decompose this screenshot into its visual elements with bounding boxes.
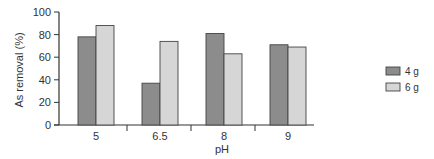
chart-canvas: 02040608010056.589 As removal (%) pH 4 g… <box>0 0 434 159</box>
bars <box>78 26 306 125</box>
y-axis-label: As removal (%) <box>13 32 25 107</box>
bar-4g-ph9 <box>270 45 288 125</box>
bar-4g-ph6.5 <box>142 83 160 125</box>
legend-swatch <box>386 67 400 75</box>
y-tick-label: 80 <box>39 29 51 41</box>
y-tick-label: 0 <box>45 119 51 131</box>
x-tick-label: 6.5 <box>152 130 167 142</box>
y-tick-label: 60 <box>39 51 51 63</box>
bar-6g-ph8 <box>224 54 242 125</box>
bar-4g-ph5 <box>78 37 96 125</box>
bar-6g-ph5 <box>96 26 114 125</box>
x-tick-label: 8 <box>221 130 227 142</box>
x-tick-label: 9 <box>285 130 291 142</box>
y-tick-label: 20 <box>39 96 51 108</box>
bar-6g-ph6.5 <box>160 41 178 125</box>
x-tick-label: 5 <box>93 130 99 142</box>
legend-label: 6 g <box>405 82 419 93</box>
bar-chart: 02040608010056.589 As removal (%) pH 4 g… <box>0 0 434 159</box>
legend-label: 4 g <box>405 66 419 77</box>
bar-6g-ph9 <box>288 47 306 125</box>
legend-swatch <box>386 83 400 91</box>
x-axis-label: pH <box>215 143 229 155</box>
y-tick-label: 40 <box>39 74 51 86</box>
bar-4g-ph8 <box>206 33 224 125</box>
legend: 4 g6 g <box>386 66 419 93</box>
y-tick-label: 100 <box>33 6 51 18</box>
